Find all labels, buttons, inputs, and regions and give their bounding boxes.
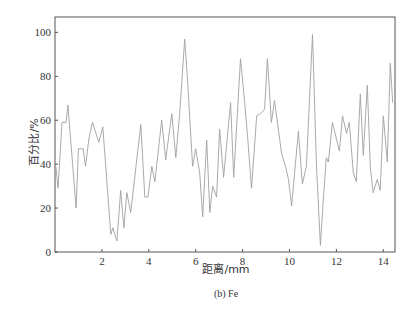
x-tick-label: 10 [284, 255, 296, 267]
y-tick-label: 40 [40, 158, 52, 170]
y-tick-label: 20 [40, 202, 52, 214]
y-axis-label: 百分比/% [28, 118, 41, 165]
figure-caption: (b) Fe [214, 288, 239, 300]
x-tick-label: 4 [146, 255, 152, 267]
x-tick-label: 6 [193, 255, 199, 267]
line-chart: 2468101214 020406080100 距离/mm 百分比/% (b) … [0, 0, 415, 309]
plot-border [55, 17, 395, 252]
y-tick-label: 80 [40, 70, 52, 82]
x-tick-label: 14 [378, 255, 390, 267]
y-tick-label: 100 [35, 26, 52, 38]
y-tick-label: 60 [40, 114, 52, 126]
x-tick-label: 2 [99, 255, 105, 267]
plot-frame [55, 17, 395, 252]
fe-series-line [56, 35, 393, 246]
y-tick-label: 0 [46, 246, 52, 258]
x-tick-label: 12 [331, 255, 342, 267]
x-axis-label: 距离/mm [202, 262, 249, 276]
